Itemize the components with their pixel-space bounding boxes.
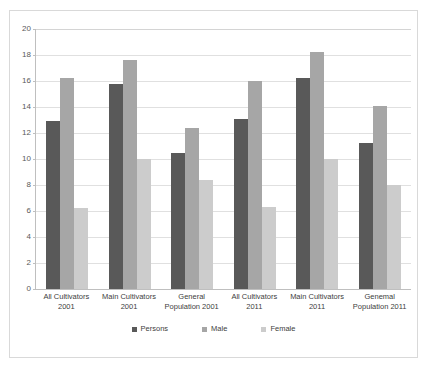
- x-axis-label-line: Population 2011: [349, 302, 410, 312]
- bar-group: [349, 29, 412, 289]
- legend-swatch-male: [202, 327, 207, 332]
- bar-female[interactable]: [137, 159, 151, 289]
- legend-swatch-persons: [132, 327, 137, 332]
- y-axis: 20181614121086420: [10, 11, 34, 357]
- x-axis-label-line: 2011: [287, 302, 348, 312]
- x-axis-label: Main Cultivators2001: [98, 292, 161, 312]
- x-axis-label-line: 2001: [99, 302, 160, 312]
- legend-item[interactable]: Male: [202, 325, 227, 333]
- bar-female[interactable]: [387, 185, 401, 289]
- bar-group: [161, 29, 224, 289]
- bar-male[interactable]: [60, 78, 74, 289]
- plot-area: [35, 29, 411, 290]
- bar-male[interactable]: [373, 106, 387, 289]
- bar-persons[interactable]: [46, 121, 60, 289]
- bar-persons[interactable]: [109, 84, 123, 289]
- bar-female[interactable]: [199, 180, 213, 289]
- y-axis-tickmark: [33, 289, 36, 290]
- x-axis-label-line: Main Cultivators: [287, 292, 348, 302]
- y-axis-tick-label: 4: [27, 233, 31, 241]
- bars-layer: [36, 29, 411, 289]
- bar-group: [99, 29, 162, 289]
- bar-female[interactable]: [324, 159, 338, 289]
- y-axis-tick-label: 20: [22, 25, 31, 33]
- bar-group: [286, 29, 349, 289]
- y-axis-tick-label: 0: [27, 285, 31, 293]
- bar-group: [224, 29, 287, 289]
- chart-plot-wrapper: 20181614121086420 All Cultivators2001Mai…: [10, 11, 417, 357]
- bar-female[interactable]: [74, 208, 88, 289]
- bar-male[interactable]: [248, 81, 262, 289]
- x-axis-label: All Cultivators2011: [223, 292, 286, 312]
- bar-male[interactable]: [123, 60, 137, 289]
- bar-male[interactable]: [185, 128, 199, 289]
- x-axis-label: GeneralPopulation 2001: [160, 292, 223, 312]
- y-axis-tick-label: 10: [22, 155, 31, 163]
- x-axis-category-labels: All Cultivators2001Main Cultivators2001G…: [35, 292, 411, 312]
- chart-frame: 20181614121086420 All Cultivators2001Mai…: [9, 10, 418, 358]
- x-axis-label-line: General: [161, 292, 222, 302]
- y-axis-tick-label: 16: [22, 77, 31, 85]
- x-axis-label-line: Population 2001: [161, 302, 222, 312]
- bar-persons[interactable]: [234, 119, 248, 289]
- bar-male[interactable]: [310, 52, 324, 289]
- legend-label: Female: [270, 325, 295, 333]
- bar-group: [36, 29, 99, 289]
- y-axis-tick-label: 12: [22, 129, 31, 137]
- legend-item[interactable]: Female: [261, 325, 295, 333]
- bar-female[interactable]: [262, 207, 276, 289]
- legend-label: Male: [211, 325, 227, 333]
- x-axis-label: All Cultivators2001: [35, 292, 98, 312]
- y-axis-tick-label: 18: [22, 51, 31, 59]
- legend-swatch-female: [261, 327, 266, 332]
- x-axis-label-line: All Cultivators: [224, 292, 285, 302]
- y-axis-tick-label: 8: [27, 181, 31, 189]
- legend-label: Persons: [141, 325, 169, 333]
- x-axis-label-line: 2011: [224, 302, 285, 312]
- y-axis-tick-label: 14: [22, 103, 31, 111]
- chart-legend: PersonsMaleFemale: [10, 325, 417, 333]
- y-axis-tick-label: 6: [27, 207, 31, 215]
- legend-item[interactable]: Persons: [132, 325, 169, 333]
- bar-persons[interactable]: [296, 78, 310, 289]
- y-axis-tick-label: 2: [27, 259, 31, 267]
- x-axis-label-line: Main Cultivators: [99, 292, 160, 302]
- x-axis-label-line: Genemal: [349, 292, 410, 302]
- x-axis-label-line: All Cultivators: [36, 292, 97, 302]
- bar-persons[interactable]: [359, 143, 373, 289]
- x-axis-label: GenemalPopulation 2011: [348, 292, 411, 312]
- x-axis-label-line: 2001: [36, 302, 97, 312]
- x-axis-label: Main Cultivators2011: [286, 292, 349, 312]
- bar-persons[interactable]: [171, 153, 185, 290]
